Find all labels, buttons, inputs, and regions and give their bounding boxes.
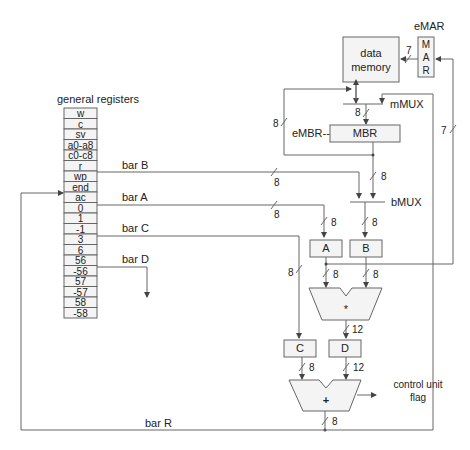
bar-a-label: bar A: [122, 191, 148, 203]
mar-letter-a: A: [423, 52, 430, 63]
register-name: -1: [76, 224, 85, 235]
register-name: wp: [73, 171, 87, 182]
register-name: -58: [73, 308, 88, 319]
register-name: 1: [78, 213, 84, 224]
register-d-label: D: [341, 342, 349, 354]
bmux-label: bMUX: [391, 196, 422, 208]
data-memory-label-2: memory: [351, 61, 391, 73]
control-unit-label-1: control unit: [394, 379, 443, 390]
width-label: 8: [309, 362, 315, 373]
width-label: 8: [381, 171, 387, 182]
bar-d-label: bar D: [122, 253, 149, 265]
width-label: 8: [373, 269, 379, 280]
register-name: 0: [78, 203, 84, 214]
width-label: 12: [353, 362, 365, 373]
bar-r-label: bar R: [145, 417, 172, 429]
width-label: 8: [355, 107, 361, 118]
embr-label: eMBR--: [292, 127, 330, 139]
width-label: 8: [288, 267, 294, 278]
registers-title: general registers: [57, 93, 139, 105]
register-c-label: C: [296, 342, 304, 354]
width-label: 8: [273, 118, 279, 129]
register-name: end: [72, 182, 89, 193]
multiplier-symbol: *: [344, 303, 349, 315]
data-memory-block: [343, 37, 399, 82]
bar-c-label: bar C: [122, 222, 149, 234]
register-name: -57: [73, 287, 88, 298]
register-name: 56: [75, 255, 87, 266]
width-label: 8: [332, 416, 338, 427]
control-unit-label-2: flag: [410, 392, 426, 403]
width-label: 8: [331, 217, 337, 228]
bar-d-line: [97, 267, 147, 297]
width-label: 7: [406, 45, 412, 56]
width-label: 12: [352, 324, 364, 335]
width-label: 8: [274, 209, 280, 220]
register-name: sv: [76, 129, 86, 140]
mmux-label: mMUX: [390, 98, 424, 110]
adder-symbol: +: [323, 394, 329, 406]
register-name: 6: [78, 245, 84, 256]
data-memory-label-1: data: [360, 47, 382, 59]
register-name: w: [76, 108, 85, 119]
register-name: 3: [78, 234, 84, 245]
bar-b-label: bar B: [122, 159, 148, 171]
mar-letter-r: R: [422, 65, 429, 76]
register-b-label: B: [362, 242, 369, 254]
register-name: 57: [75, 276, 87, 287]
width-label: 8: [372, 217, 378, 228]
width-label: 8: [274, 177, 280, 188]
register-name: 58: [75, 297, 87, 308]
datapath-diagram: general registers wcsva0-a8c0-c8rwpendac…: [0, 0, 470, 450]
mar-letter-m: M: [422, 39, 430, 50]
width-label: 8: [333, 269, 339, 280]
mbr-label: MBR: [353, 127, 378, 139]
register-file: wcsva0-a8c0-c8rwpendac01-13656-5657-5758…: [64, 108, 97, 319]
width-label: 7: [441, 125, 447, 136]
mar-feedback-line: [327, 59, 453, 264]
register-name: c0-c8: [68, 150, 93, 161]
bar-c-line: [97, 236, 299, 338]
register-name: ac: [75, 192, 86, 203]
register-name: -56: [73, 266, 88, 277]
register-name: c: [78, 119, 83, 130]
emar-label: eMAR: [414, 20, 445, 32]
register-name: a0-a8: [68, 140, 94, 151]
register-a-label: A: [322, 242, 330, 254]
mbr-feedback-line: [284, 89, 351, 155]
